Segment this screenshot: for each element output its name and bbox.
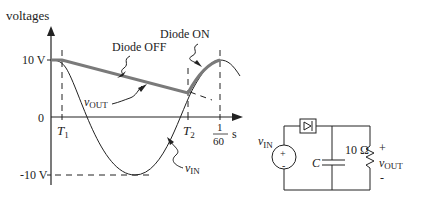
tick-neg10v: -10 V (20, 168, 48, 182)
arrow-vout-icon (138, 84, 147, 92)
y-axis-label: voltages (6, 8, 49, 23)
label-vin: vIN (185, 161, 200, 176)
rectifier-diagram: voltages 10 V 0 -10 V T1 T2 1 60 s Diode… (0, 0, 436, 207)
tick-10v: 10 V (22, 53, 46, 67)
tick-zero: 0 (38, 111, 44, 125)
resistor-label: 10 Ω (345, 143, 369, 157)
y-axis-arrow-icon (47, 26, 55, 36)
label-vout: vOUT (84, 95, 108, 110)
capacitor-label: C (312, 156, 321, 170)
tick-period-den: 60 (213, 135, 225, 147)
dashed-guides (55, 50, 220, 175)
label-diode-off: Diode OFF (112, 40, 167, 54)
tick-unit: s (232, 127, 237, 141)
arrow-diode-on-icon (194, 60, 202, 67)
output-plus: + (379, 141, 386, 155)
tick-period-num: 1 (217, 121, 223, 133)
diode-icon (300, 119, 316, 133)
source-plus: + (280, 148, 286, 159)
axes (51, 34, 232, 185)
vout-curve (51, 60, 220, 93)
tick-t2: T2 (183, 123, 195, 140)
label-diode-on: Diode ON (160, 27, 210, 41)
tick-t1: T1 (57, 123, 69, 140)
output-label: vOUT (379, 156, 403, 171)
output-minus: - (380, 171, 384, 185)
source-minus: - (282, 160, 285, 171)
source-label: vIN (258, 134, 273, 150)
x-axis-arrow-icon (232, 113, 243, 121)
